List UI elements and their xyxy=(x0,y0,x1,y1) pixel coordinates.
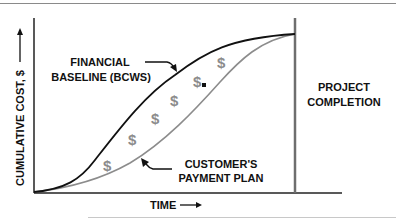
payment-label-line1: CUSTOMER'S xyxy=(185,158,258,170)
dollar-sign-icon: $ xyxy=(193,73,202,90)
y-axis-label: CUMULATIVE COST, $ xyxy=(14,70,26,186)
dollar-sign-icon: $ xyxy=(151,110,160,127)
milestone-label-line1: PROJECT xyxy=(318,81,370,93)
arrow-up-icon xyxy=(17,28,23,35)
baseline-label-line2: BASELINE (BCWS) xyxy=(51,71,151,83)
dollar-sign-icon: $ xyxy=(217,54,226,71)
baseline-label-line1: FINANCIAL xyxy=(70,56,130,68)
arrow-pointer-icon xyxy=(170,64,177,72)
dollar-sign-icon: $ xyxy=(170,92,179,109)
arrow-right-icon xyxy=(196,202,202,208)
payment-label-line2: PAYMENT PLAN xyxy=(179,172,264,184)
dollar-sign-icon: $ xyxy=(103,157,112,174)
baseline-pointer-arrow xyxy=(145,62,174,68)
marker-square xyxy=(202,83,206,87)
cost-curve-diagram: $ $ $ $ $ $ CUMULATIVE COST, $ TIME FINA… xyxy=(0,0,396,221)
payment-pointer-arrow xyxy=(146,164,172,169)
dollar-sign-icon: $ xyxy=(128,131,137,148)
milestone-label-line2: COMPLETION xyxy=(307,96,380,108)
x-axis-label: TIME xyxy=(150,199,176,211)
